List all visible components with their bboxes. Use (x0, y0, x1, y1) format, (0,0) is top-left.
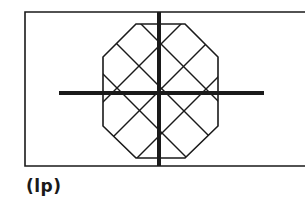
frame-rectangle (25, 12, 305, 166)
hatch-line (117, 0, 305, 205)
hatch-line (0, 0, 250, 205)
hatch-line (29, 0, 305, 205)
figure-caption: (lp) (26, 176, 62, 196)
hatch-line (73, 0, 305, 205)
octagon-crosshatch-diagram (0, 0, 305, 205)
crosshatch-lines (0, 0, 305, 205)
